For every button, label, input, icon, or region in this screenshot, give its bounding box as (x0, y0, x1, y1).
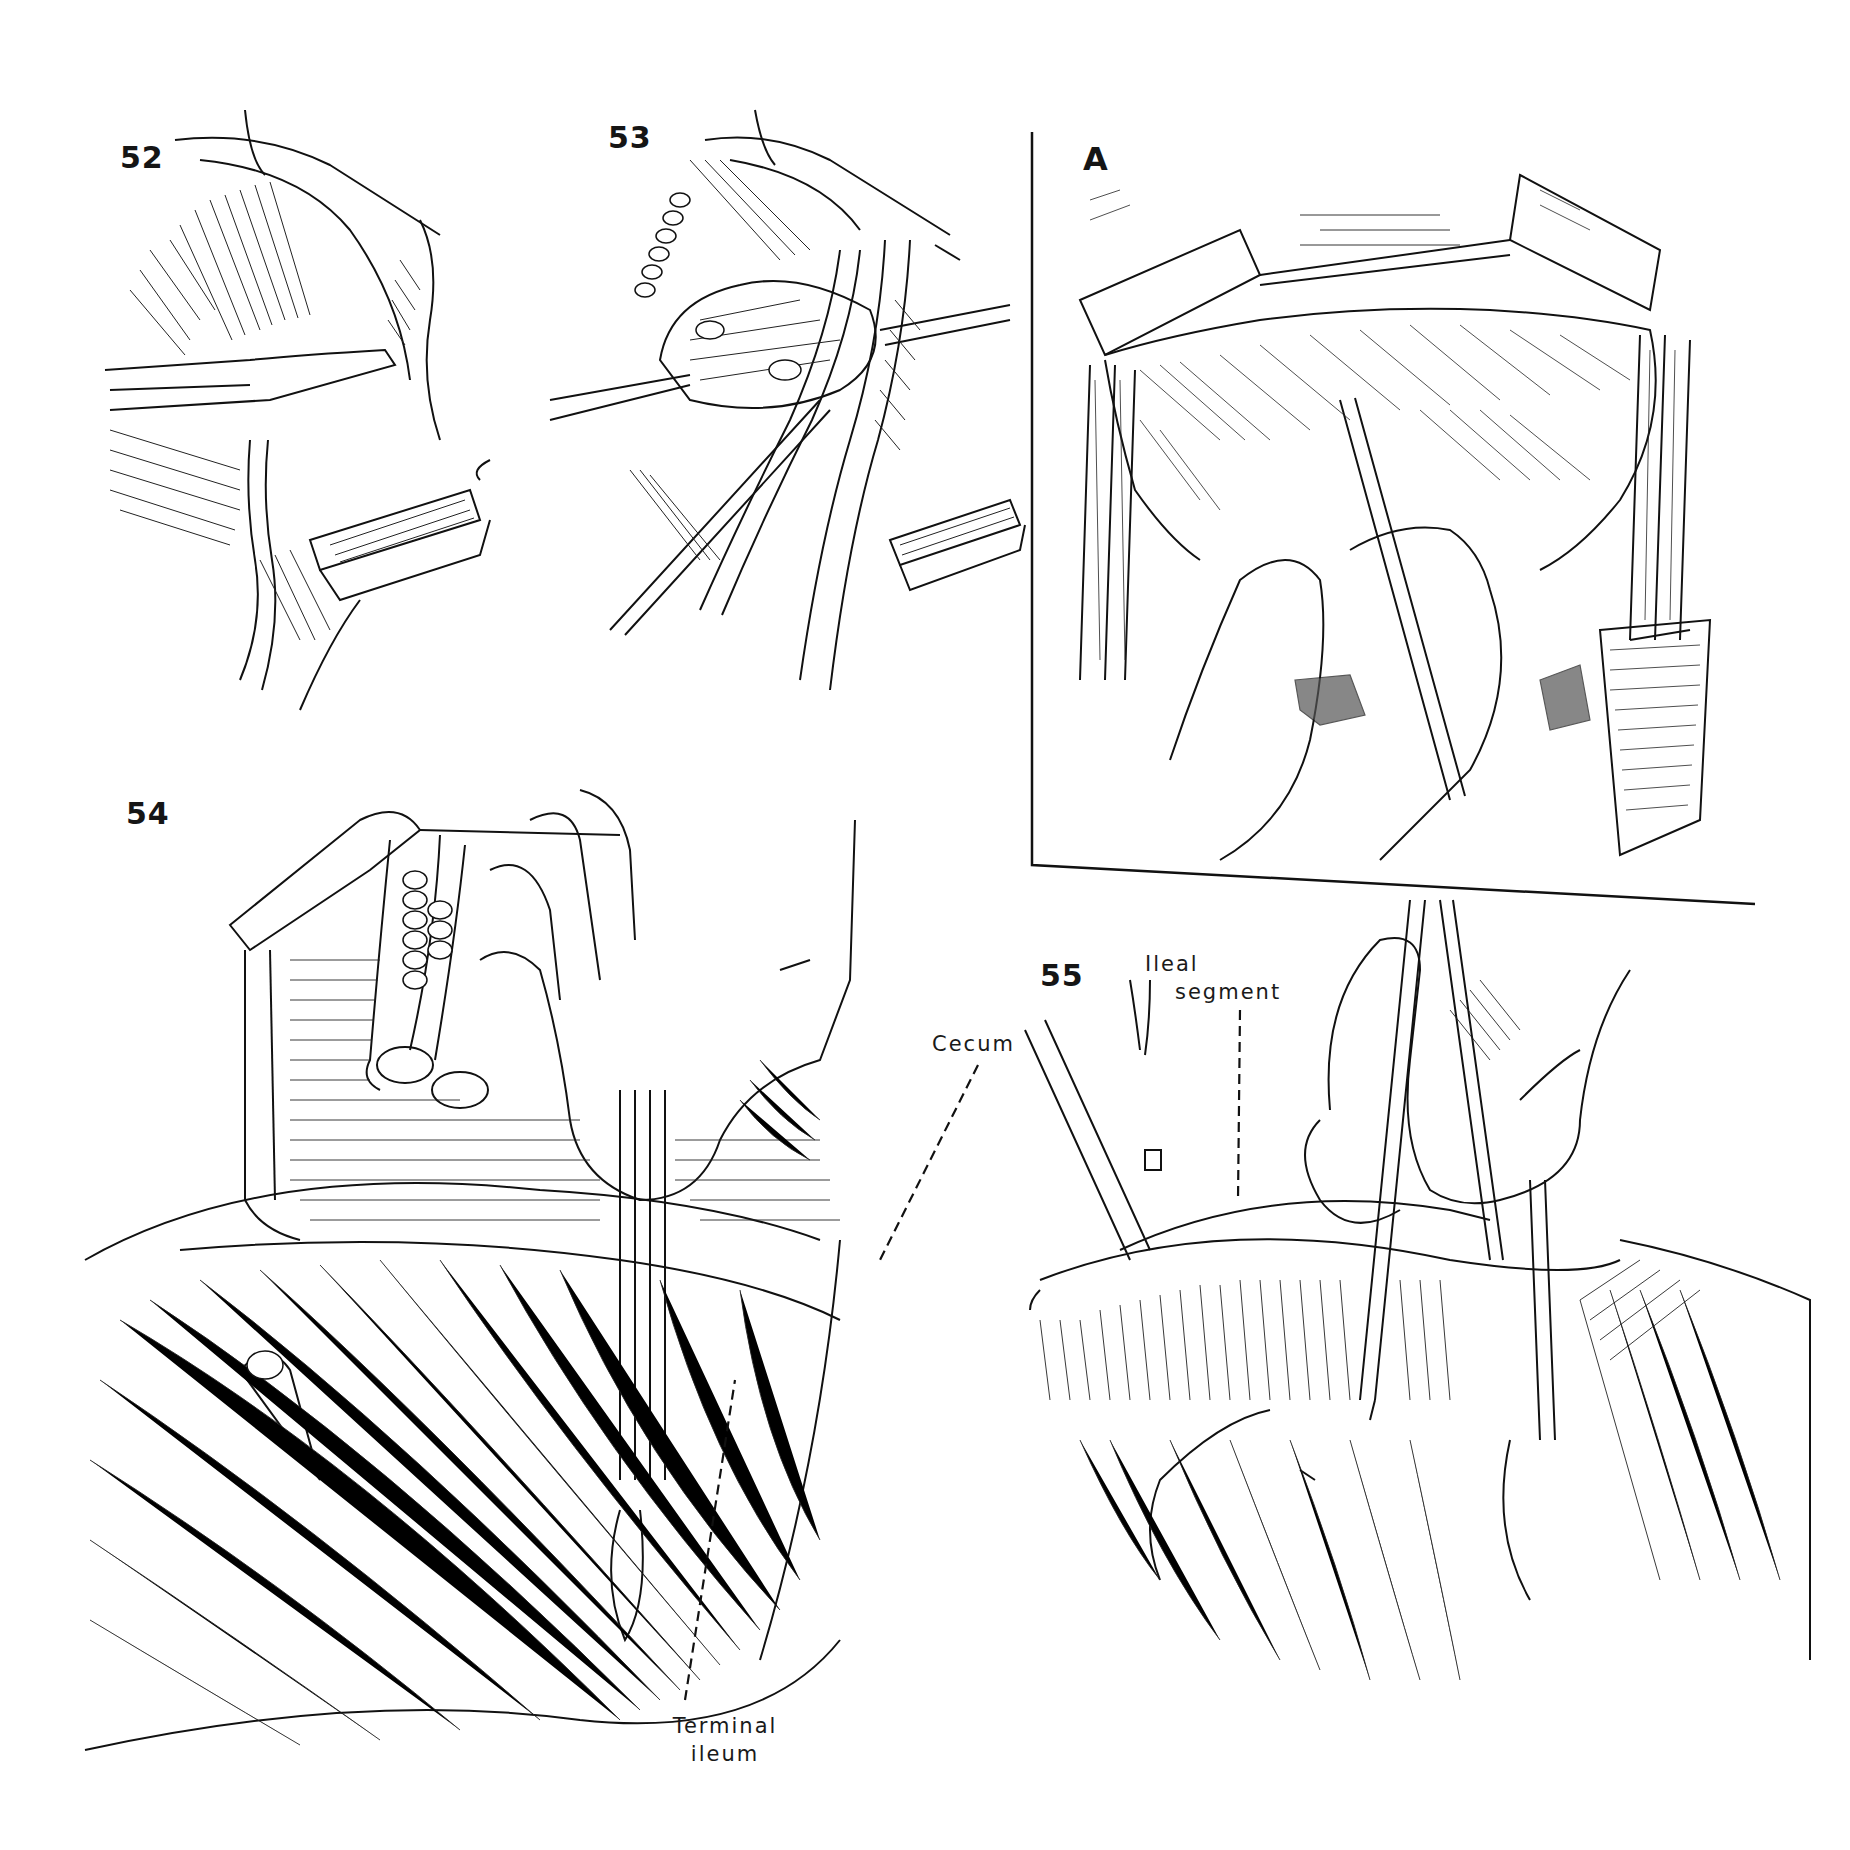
label-terminal-ileum-line1: Terminal (630, 1712, 820, 1740)
figure-52-drawing (0, 0, 600, 740)
figure-52: 52 (0, 0, 600, 740)
figure-A-drawing (1020, 120, 1820, 920)
figure-53-drawing (540, 0, 1040, 740)
cecum-leader-line (880, 1065, 978, 1260)
label-terminal-ileum: Terminal ileum (630, 1712, 820, 1768)
label-terminal-ileum-line2: ileum (630, 1740, 820, 1768)
figure-53: 53 (540, 0, 1040, 740)
figure-55: 55 Ileal segment (1020, 880, 1850, 1720)
figure-A-inset: A (1020, 120, 1820, 920)
figure-55-drawing (1020, 880, 1850, 1720)
label-cecum: Cecum (932, 1030, 1015, 1058)
ileal-segment-leader-line (1238, 1010, 1240, 1200)
figure-54: 54 (60, 760, 1040, 1760)
surgical-illustration-plate: 52 (0, 0, 1850, 1850)
figure-label-A: A (1083, 140, 1109, 178)
figure-54-drawing (60, 760, 1040, 1760)
